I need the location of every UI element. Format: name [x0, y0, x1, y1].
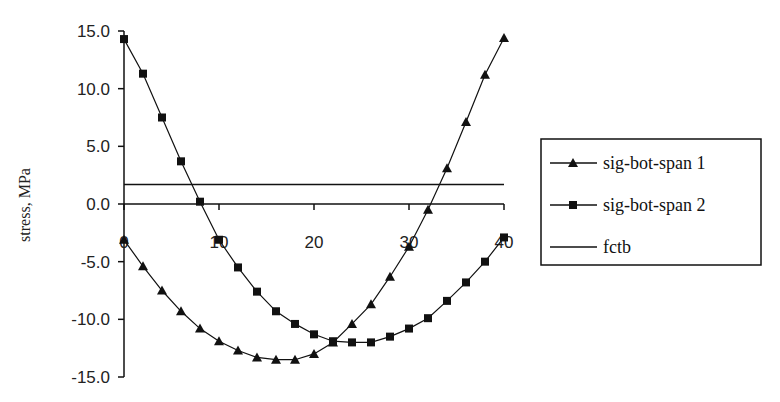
square-marker	[310, 330, 318, 338]
square-marker	[424, 314, 432, 322]
series-sig-bot-span-2	[120, 35, 508, 346]
square-marker	[139, 70, 147, 78]
triangle-marker	[480, 70, 490, 79]
y-tick-label: 5.0	[86, 137, 110, 156]
y-tick-label: 15.0	[77, 22, 110, 41]
y-tick-label: -10.0	[71, 310, 110, 329]
square-marker	[386, 333, 394, 341]
legend: sig-bot-span 1sig-bot-span 2fctb	[541, 139, 761, 265]
square-marker	[234, 263, 242, 271]
square-marker	[158, 114, 166, 122]
plot-area	[119, 33, 509, 364]
triangle-marker	[214, 336, 224, 345]
square-marker	[120, 35, 128, 43]
square-marker	[177, 157, 185, 165]
triangle-marker	[366, 299, 376, 308]
x-axis: 010203040	[119, 204, 513, 252]
square-marker	[196, 198, 204, 206]
square-marker	[481, 258, 489, 266]
triangle-marker	[423, 205, 433, 214]
y-axis-title: stress, MPa	[16, 168, 33, 242]
triangle-marker	[138, 261, 148, 270]
stress-chart: 15.010.05.00.0-5.0-10.0-15.0 010203040 s…	[0, 0, 780, 402]
y-tick-label: 10.0	[77, 80, 110, 99]
square-marker	[443, 297, 451, 305]
square-marker	[405, 325, 413, 333]
square-marker	[569, 201, 577, 209]
square-marker	[462, 278, 470, 286]
square-marker	[215, 236, 223, 244]
y-tick-label: -15.0	[71, 368, 110, 387]
square-marker	[253, 288, 261, 296]
triangle-marker	[252, 352, 262, 361]
square-marker	[329, 337, 337, 345]
y-tick-label: 0.0	[86, 195, 110, 214]
square-marker	[500, 233, 508, 241]
triangle-marker	[442, 163, 452, 172]
triangle-marker	[233, 345, 243, 354]
square-marker	[272, 307, 280, 315]
triangle-marker	[309, 349, 319, 358]
legend-label: sig-bot-span 1	[603, 153, 706, 173]
triangle-marker	[385, 272, 395, 281]
y-tick-label: -5.0	[81, 253, 110, 272]
series-sig-bot-span-1	[119, 33, 509, 364]
y-axis: 15.010.05.00.0-5.0-10.0-15.0	[71, 22, 124, 387]
square-marker	[291, 320, 299, 328]
legend-label: fctb	[603, 237, 631, 257]
triangle-marker	[461, 117, 471, 126]
square-marker	[367, 338, 375, 346]
legend-label: sig-bot-span 2	[603, 195, 706, 215]
square-marker	[348, 338, 356, 346]
triangle-marker	[499, 33, 509, 42]
x-tick-label: 20	[305, 233, 324, 252]
